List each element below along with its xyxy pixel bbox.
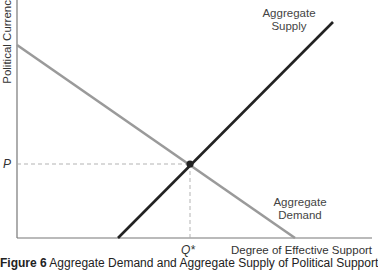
aggregate-demand-line xyxy=(17,45,295,238)
demand-label-line1: Aggregate xyxy=(255,196,345,209)
demand-label: Aggregate Demand xyxy=(255,196,345,222)
q-tick-label: Q* xyxy=(181,243,195,257)
demand-label-line2: Demand xyxy=(255,209,345,222)
figure-caption: Figure 6 Aggregate Demand and Aggregate … xyxy=(0,256,378,270)
caption-prefix: Figure 6 xyxy=(0,256,47,270)
supply-label-line1: Aggregate xyxy=(244,7,334,20)
caption-text: Aggregate Demand and Aggregate Supply of… xyxy=(47,256,378,270)
p-tick-label: P xyxy=(3,157,11,171)
x-axis-label: Degree of Effective Support xyxy=(231,244,372,256)
y-axis-label: Political Currency xyxy=(0,0,14,104)
supply-label: Aggregate Supply xyxy=(244,7,334,33)
supply-label-line2: Supply xyxy=(244,20,334,33)
equilibrium-point xyxy=(186,160,193,167)
